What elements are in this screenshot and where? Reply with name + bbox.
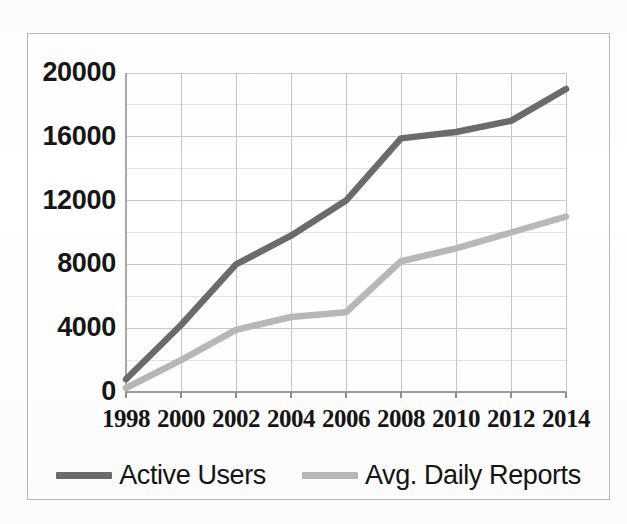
line-chart-figure: 200001600012000800040000 199820002002200… [0, 0, 627, 524]
legend-label-active-users: Active Users [119, 462, 266, 489]
y-tick-label: 20000 [42, 59, 116, 86]
y-tick-label: 4000 [57, 314, 116, 341]
chart-legend: Active Users Avg. Daily Reports [27, 455, 610, 495]
legend-label-avg-daily-reports: Avg. Daily Reports [365, 462, 581, 489]
x-axis-tick-marks [126, 392, 566, 398]
y-tick-label: 0 [101, 378, 116, 405]
y-tick-label: 8000 [57, 250, 116, 277]
y-tick-label: 16000 [42, 123, 116, 150]
x-tick-label: 2014 [534, 406, 598, 431]
legend-swatch-active-users [56, 472, 112, 479]
legend-item-active-users[interactable]: Active Users [56, 462, 266, 489]
legend-item-avg-daily-reports[interactable]: Avg. Daily Reports [302, 462, 581, 489]
legend-swatch-avg-daily-reports [302, 472, 358, 479]
y-tick-label: 12000 [42, 187, 116, 214]
